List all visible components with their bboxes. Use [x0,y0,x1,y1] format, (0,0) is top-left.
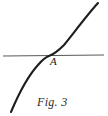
figure-container: A Fig. 3 [0,0,108,116]
point-label-a: A [50,56,57,67]
figure-caption: Fig. 3 [37,96,67,109]
